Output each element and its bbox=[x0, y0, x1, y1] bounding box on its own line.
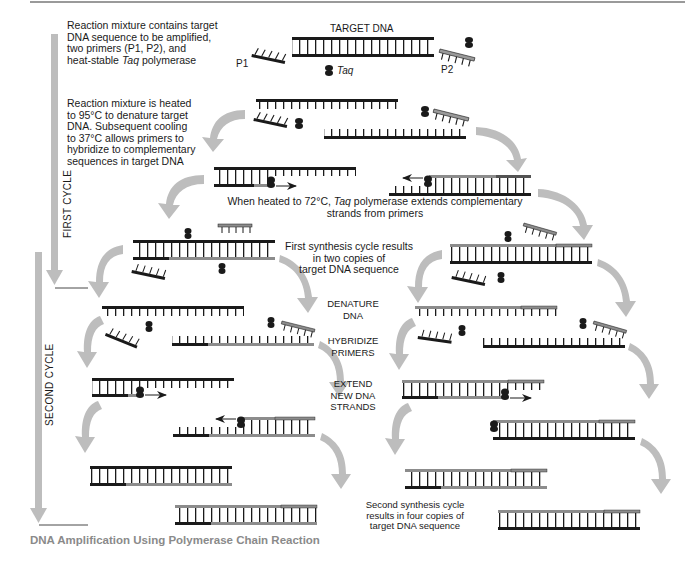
hybridize-label: HYBRIDIZE PRIMERS bbox=[318, 335, 388, 358]
p1-label: P1 bbox=[236, 58, 248, 69]
step5-line3: target DNA sequence bbox=[350, 521, 480, 532]
cycle2-left-strands bbox=[102, 306, 315, 349]
target-dna-label: TARGET DNA bbox=[330, 23, 394, 34]
hybridize-line1: HYBRIDIZE bbox=[318, 335, 388, 347]
primer-p1-free bbox=[253, 111, 288, 128]
step2-line3: DNA. Subsequent cooling bbox=[67, 121, 195, 133]
primer-p1 bbox=[251, 47, 286, 64]
denature-label: DENATURE DNA bbox=[318, 298, 388, 321]
extend-label: EXTEND NEW DNA STRANDS bbox=[318, 378, 388, 413]
step4-line1: First synthesis cycle results bbox=[284, 241, 414, 253]
pcr-diagram bbox=[0, 0, 685, 568]
cycle2-extension-left bbox=[92, 378, 315, 437]
cycle2-extension-right bbox=[402, 380, 635, 440]
denatured-strand-top bbox=[256, 99, 398, 109]
final-copy-3 bbox=[405, 469, 547, 489]
primer-p2-free bbox=[432, 109, 469, 127]
extend-line2: NEW DNA bbox=[318, 390, 388, 402]
p2-label: P2 bbox=[441, 64, 453, 75]
step3-line2: strands from primers bbox=[215, 208, 535, 220]
step2-line1: Reaction mixture is heated bbox=[67, 98, 195, 110]
cycle2-right-strands bbox=[415, 306, 627, 348]
second-cycle-label: SECOND CYCLE bbox=[44, 343, 55, 426]
extend-line1: EXTEND bbox=[318, 378, 388, 390]
step2-line5: hybridize to complementary bbox=[67, 144, 195, 156]
step1-line4-pre: heat-stable bbox=[67, 54, 122, 66]
step2-description: Reaction mixture is heated to 95°C to de… bbox=[67, 98, 195, 167]
final-copy-1 bbox=[90, 466, 232, 486]
extend-line3: STRANDS bbox=[318, 401, 388, 413]
denature-line1: DENATURE bbox=[318, 298, 388, 310]
step3-line1-post: polymerase extends complementary bbox=[351, 195, 523, 207]
copy-1-duplex bbox=[133, 240, 275, 260]
step1-line4-italic: Taq bbox=[122, 54, 139, 66]
extension-left bbox=[214, 167, 356, 188]
step3-line1: When heated to 72°C, Taq polymerase exte… bbox=[215, 196, 535, 208]
denatured-strand-bottom bbox=[324, 129, 466, 139]
extension-right bbox=[389, 175, 531, 196]
taq-polymerase-icon bbox=[295, 106, 429, 129]
step5-line1: Second synthesis cycle bbox=[350, 500, 480, 511]
hybridize-line2: PRIMERS bbox=[318, 347, 388, 359]
taq-label: Taq bbox=[337, 65, 353, 76]
step4-description: First synthesis cycle results in two cop… bbox=[284, 241, 414, 276]
figure-caption: DNA Amplification Using Polymerase Chain… bbox=[30, 534, 320, 546]
step1-line1: Reaction mixture contains target bbox=[67, 20, 218, 32]
step1-line4-post: polymerase bbox=[139, 54, 196, 66]
step1-line4: heat-stable Taq polymerase bbox=[67, 55, 218, 67]
step3-line1-italic: Taq bbox=[334, 195, 351, 207]
first-cycle-label: FIRST CYCLE bbox=[62, 170, 73, 238]
step3-line1-pre: When heated to 72°C, bbox=[227, 195, 333, 207]
step1-description: Reaction mixture contains target DNA seq… bbox=[67, 20, 218, 66]
step5-description: Second synthesis cycle results in four c… bbox=[350, 500, 480, 532]
step3-description: When heated to 72°C, Taq polymerase exte… bbox=[215, 196, 535, 219]
step2-line6: sequences in target DNA bbox=[67, 156, 195, 168]
final-copy-2 bbox=[175, 505, 317, 525]
denature-line2: DNA bbox=[318, 310, 388, 322]
step4-line3: target DNA sequence bbox=[284, 264, 414, 276]
final-copy-4 bbox=[498, 510, 640, 530]
copy-2-duplex bbox=[450, 244, 592, 264]
target-dna-duplex bbox=[292, 37, 434, 57]
second-cycle-arrow bbox=[30, 252, 88, 525]
